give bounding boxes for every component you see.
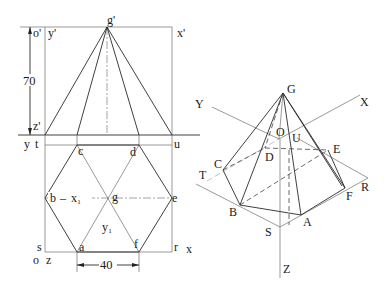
- label-C: C: [214, 157, 222, 171]
- dimension-70-label: 70: [23, 74, 36, 88]
- label-G: G: [287, 82, 296, 96]
- label-g-prime: g': [107, 13, 115, 27]
- label-S: S: [265, 225, 272, 239]
- edge-G-C: [223, 93, 283, 170]
- label-y-prime: y': [48, 26, 56, 40]
- drawing-canvas: 70 g' o' y' x' z' 40 y t u c d: [0, 0, 389, 288]
- edge-g-e: [107, 27, 172, 135]
- arrowhead-left-icon: [77, 263, 84, 267]
- label-U: U: [292, 131, 301, 145]
- label-dash: –: [59, 191, 67, 205]
- label-Y: Y: [195, 97, 204, 111]
- label-y: y: [24, 137, 30, 151]
- axonometric-view: G X Y O U D E C T R F B A S Z: [195, 82, 369, 278]
- label-A: A: [303, 215, 312, 229]
- label-z-prime: z': [33, 119, 41, 133]
- edge-A-F: [301, 188, 345, 215]
- label-Z: Z: [283, 262, 290, 276]
- arrowhead-right-icon: [132, 263, 139, 267]
- dimension-40-label: 40: [100, 258, 113, 272]
- label-x-prime: x': [177, 26, 185, 40]
- edge-g-d: [107, 27, 139, 135]
- label-f: f: [134, 237, 138, 251]
- hidden-C-D: [223, 148, 265, 170]
- label-B: B: [229, 205, 237, 219]
- label-R: R: [361, 180, 369, 194]
- label-X: X: [360, 95, 369, 109]
- label-z: z: [46, 253, 51, 267]
- edge-C-B: [223, 170, 240, 205]
- label-u: u: [174, 137, 180, 151]
- label-O: O: [276, 125, 285, 139]
- edge-B-A: [240, 205, 301, 215]
- top-view: 40 y t u c d b – x₁ g e y₁ s a f r x o z: [24, 135, 192, 272]
- label-d: d: [130, 145, 136, 159]
- edge-G-B: [240, 93, 283, 205]
- label-T: T: [199, 168, 207, 182]
- label-c: c: [78, 144, 83, 158]
- line-S-R: [280, 178, 368, 227]
- line-T-S: [196, 184, 280, 227]
- label-o-prime: o': [33, 26, 41, 40]
- label-D: D: [265, 150, 274, 164]
- label-x1: x₁: [71, 191, 81, 205]
- label-s: s: [37, 240, 42, 254]
- label-o: o: [33, 253, 39, 267]
- edge-G-A: [283, 93, 301, 215]
- label-E: E: [333, 142, 340, 156]
- label-g: g: [112, 190, 118, 204]
- label-b: b: [50, 191, 56, 205]
- label-t: t: [35, 137, 39, 151]
- label-F: F: [346, 189, 353, 203]
- label-e: e: [172, 191, 177, 205]
- edge-g-c: [77, 27, 107, 135]
- axis-Y-line: [212, 107, 279, 139]
- front-view: 70 g' o' y' x' z': [18, 13, 200, 145]
- label-y1: y₁: [102, 220, 112, 234]
- label-r: r: [174, 240, 178, 254]
- label-a: a: [79, 240, 85, 254]
- label-x: x: [186, 242, 192, 256]
- edge-g-b: [45, 27, 107, 135]
- arrowhead-up-icon: [28, 27, 32, 34]
- hidden-B-E: [240, 150, 328, 205]
- arrowhead-down-icon: [28, 128, 32, 135]
